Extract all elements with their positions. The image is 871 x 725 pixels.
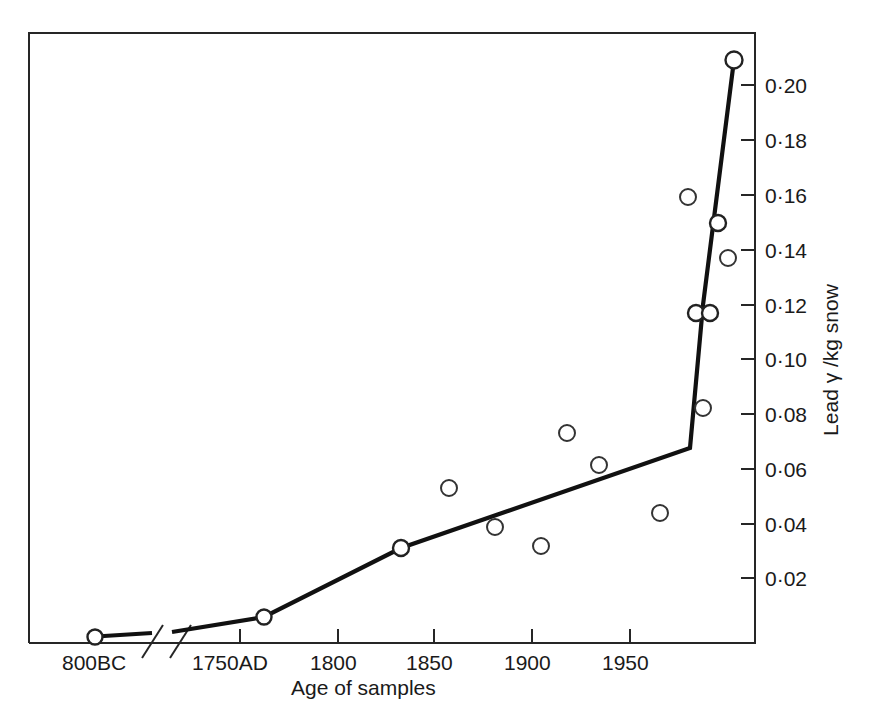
data-point-1965 [726,52,743,69]
y-tick-label-0-08: 0·08 [765,403,807,426]
data-point-1934 [652,505,668,521]
y-tick-label-0-04: 0·04 [765,513,807,536]
lead-in-snow-scatter-chart: 0·20 0·18 0·16 0·14 0·12 0·10 0·08 0·06 … [0,0,871,725]
y-axis-ticks [741,85,755,578]
x-tick-label-1750ad: 1750AD [192,651,268,674]
data-point-1860 [487,519,503,535]
x-axis-tick-labels: 800BC 1750AD 1800 1850 1900 1950 [62,651,649,674]
x-tick-label-1800: 1800 [310,651,357,674]
data-point-1955b [695,400,711,416]
y-tick-label-0-16: 0·16 [765,184,807,207]
axis-break-slash-left [142,625,163,658]
y-tick-label-0-12: 0·12 [765,294,807,317]
trend-line-main [172,60,734,632]
data-point-800bc [88,630,103,645]
data-point-1834 [441,480,457,496]
y-tick-label-0-10: 0·10 [765,348,807,371]
data-point-1753 [257,610,272,625]
data-point-1815 [393,540,409,556]
x-tick-label-1900: 1900 [504,651,551,674]
data-point-1908 [591,457,607,473]
y-axis-title: Lead γ /kg snow [819,283,842,436]
y-tick-label-0-18: 0·18 [765,129,807,152]
data-point-1958 [680,189,696,205]
y-axis-tick-labels: 0·20 0·18 0·16 0·14 0·12 0·10 0·08 0·06 … [765,74,807,590]
chart-container: 0·20 0·18 0·16 0·14 0·12 0·10 0·08 0·06 … [0,0,871,725]
x-tick-label-1950: 1950 [602,651,649,674]
y-tick-label-0-02: 0·02 [765,567,807,590]
data-point-markers [88,52,743,645]
data-point-1962 [720,250,736,266]
x-tick-label-1850: 1850 [406,651,453,674]
x-tick-label-800bc: 800BC [62,651,126,674]
x-axis-ticks [240,629,630,643]
x-axis-title: Age of samples [291,676,436,699]
data-point-1893 [559,425,575,441]
y-tick-label-0-20: 0·20 [765,74,807,97]
data-point-1961 [710,215,726,231]
data-point-1881 [533,538,549,554]
y-tick-label-0-14: 0·14 [765,239,807,262]
data-point-1955 [702,305,718,321]
y-tick-label-0-06: 0·06 [765,458,807,481]
